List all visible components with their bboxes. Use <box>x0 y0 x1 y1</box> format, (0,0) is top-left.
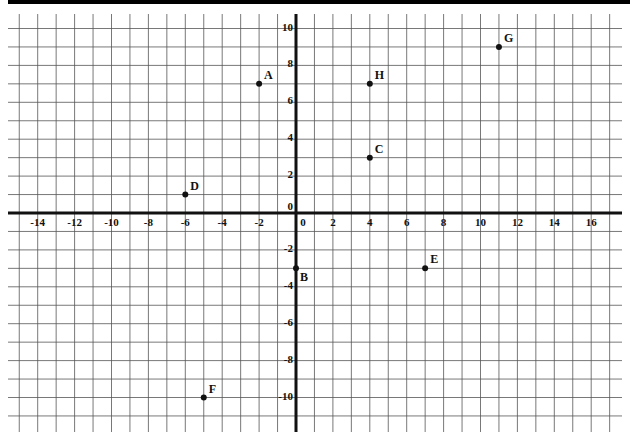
point-marker <box>256 81 262 87</box>
x-tick-label: 2 <box>330 216 336 228</box>
point-marker <box>367 81 373 87</box>
y-tick-label: -4 <box>284 279 294 291</box>
y-tick-label: 6 <box>288 94 294 106</box>
y-tick-label: 0 <box>288 200 294 212</box>
y-tick-label: 8 <box>288 57 294 69</box>
point-marker <box>293 265 299 271</box>
point-marker <box>182 192 188 198</box>
point-label: C <box>375 142 384 156</box>
point-label: H <box>375 68 385 82</box>
y-tick-label: -6 <box>284 316 294 328</box>
plotted-points: ABCDEFGH <box>182 31 513 401</box>
y-tick-label: 2 <box>288 168 294 180</box>
y-tick-label: -8 <box>284 353 294 365</box>
x-tick-label: 14 <box>549 216 561 228</box>
x-tick-label: 0 <box>300 216 306 228</box>
grid-lines <box>8 14 622 432</box>
point-marker <box>496 44 502 50</box>
point-label: F <box>209 382 216 396</box>
x-tick-label: 6 <box>404 216 410 228</box>
y-tick-label: 10 <box>282 21 294 33</box>
y-tick-label: 4 <box>288 131 294 143</box>
x-tick-label: -8 <box>144 216 154 228</box>
x-tick-label: 12 <box>512 216 524 228</box>
point-label: A <box>264 68 273 82</box>
point-label: G <box>504 31 513 45</box>
point-label: D <box>190 179 199 193</box>
y-tick-label: -2 <box>284 242 294 254</box>
x-axis-tick-labels: -14-12-10-8-6-4-20246810121416 <box>30 216 597 228</box>
axes <box>8 14 622 432</box>
x-tick-label: 10 <box>475 216 487 228</box>
y-tick-label: -10 <box>278 390 293 402</box>
x-tick-label: -4 <box>218 216 228 228</box>
point-marker <box>201 395 207 401</box>
point-marker <box>367 155 373 161</box>
y-axis-tick-labels: 1086420-2-4-6-8-10 <box>278 21 293 402</box>
point-label: B <box>300 270 308 284</box>
x-tick-label: -2 <box>255 216 265 228</box>
coordinate-plane: -14-12-10-8-6-4-20246810121416 1086420-2… <box>0 0 630 441</box>
x-tick-label: -12 <box>67 216 82 228</box>
x-tick-label: -10 <box>104 216 119 228</box>
x-tick-label: 4 <box>367 216 373 228</box>
point-marker <box>422 265 428 271</box>
x-tick-label: 8 <box>441 216 447 228</box>
point-label: E <box>430 252 438 266</box>
x-tick-label: 16 <box>586 216 598 228</box>
x-tick-label: -6 <box>181 216 191 228</box>
x-tick-label: -14 <box>30 216 45 228</box>
